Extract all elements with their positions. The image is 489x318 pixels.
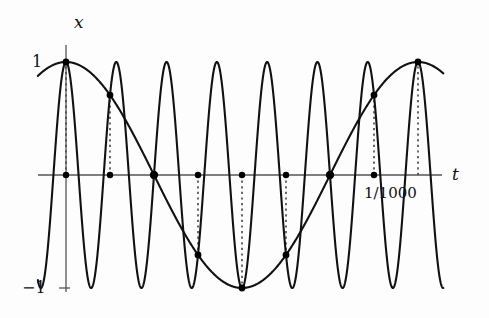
axis-sample-dot	[63, 172, 69, 178]
x-axis-label: t	[452, 166, 459, 183]
y-tick-label-one: 1	[32, 54, 42, 70]
axis-sample-dot	[151, 172, 157, 178]
aliasing-figure: x t 1 −1 1/1000	[0, 0, 489, 318]
sample-dot	[371, 92, 378, 99]
plot-canvas	[0, 0, 489, 318]
x-tick-label-period: 1/1000	[364, 186, 417, 201]
sample-dot	[415, 59, 422, 66]
sample-dot	[239, 285, 246, 292]
sample-dot	[195, 252, 202, 259]
axis-sample-dot	[327, 172, 333, 178]
axis-sample-dot	[107, 172, 113, 178]
y-tick-label-minus-one: −1	[22, 280, 46, 296]
axis-sample-dot	[195, 172, 201, 178]
y-axis-label: x	[74, 14, 84, 31]
axis-sample-dot	[283, 172, 289, 178]
axis-sample-dot	[239, 172, 245, 178]
axis-sample-dot	[371, 172, 377, 178]
sample-dot	[283, 252, 290, 259]
sample-dot	[63, 59, 70, 66]
sample-dot	[107, 92, 114, 99]
